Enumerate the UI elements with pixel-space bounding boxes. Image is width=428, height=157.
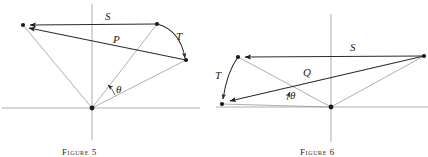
figure-6-vertex-right [422, 54, 426, 58]
figure-6-label-S: S [350, 41, 356, 53]
figure-6-label-theta: θ [290, 89, 296, 101]
figure-5: S P T θ Figure 5 [0, 0, 214, 157]
figure-6-vertex-bottom-left [220, 102, 224, 106]
figure-6-vector-Q [230, 56, 424, 101]
figure-5-label-T: T [176, 30, 183, 42]
figure-6-edge-origin-bottomleft [222, 104, 331, 107]
figure-5-label-P: P [112, 33, 120, 45]
figure-6-vertex-top-left [236, 55, 240, 59]
figure-5-vertex-top-right [155, 22, 159, 26]
figure-5-edge-origin-topright [92, 24, 157, 108]
figure-6-vector-S [245, 56, 424, 57]
figure-5-vector-S [30, 24, 157, 25]
figure-5-vertex-left [21, 23, 25, 27]
figure-6-vertex-origin [329, 105, 334, 110]
figure-6-vector-T-arc [223, 57, 238, 99]
figure-5-caption: Figure 5 [62, 147, 97, 157]
figure-6-label-T: T [215, 69, 222, 81]
figure-6-label-Q: Q [303, 66, 311, 78]
figure-pair-container: S P T θ Figure 5 S Q T θ [0, 0, 428, 157]
figure-6: S Q T θ Figure 6 [214, 0, 428, 157]
figure-5-label-theta: θ [116, 83, 122, 95]
figure-5-angle-theta-arc [108, 85, 115, 95]
figure-6-edge-origin-topleft [238, 57, 331, 107]
figure-6-edge-origin-right [331, 56, 424, 107]
figure-5-vector-P [29, 28, 186, 60]
figure-5-vertex-right [184, 58, 188, 62]
figure-5-vertex-origin [90, 106, 95, 111]
figure-6-caption: Figure 6 [300, 147, 335, 157]
figure-5-edge-origin-right [92, 60, 186, 108]
figure-5-label-S: S [105, 10, 111, 22]
figure-5-edge-origin-left [23, 25, 92, 108]
